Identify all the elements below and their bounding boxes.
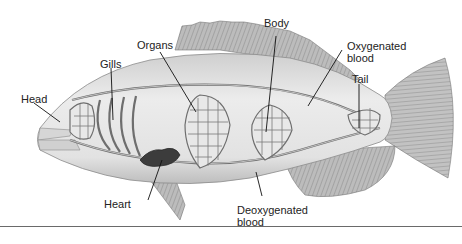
label-oxygenated-blood-1: Oxygenated bbox=[347, 40, 406, 52]
label-body: Body bbox=[264, 17, 289, 29]
label-deoxygenated-blood-1: Deoxygenated bbox=[237, 204, 308, 216]
fish-circulation-diagram: Head Gills Organs Body Oxygenated blood … bbox=[0, 0, 462, 244]
label-heart: Heart bbox=[104, 198, 131, 210]
label-tail: Tail bbox=[352, 73, 369, 85]
label-head: Head bbox=[21, 93, 47, 105]
label-gills: Gills bbox=[100, 58, 121, 70]
label-organs: Organs bbox=[137, 39, 173, 51]
fish-illustration bbox=[0, 0, 462, 244]
label-oxygenated-blood-2: blood bbox=[347, 52, 374, 64]
bottom-divider bbox=[0, 226, 462, 227]
pelvic-fin bbox=[150, 178, 185, 220]
head-capillary-bed bbox=[70, 103, 95, 139]
tail-fin bbox=[385, 58, 453, 178]
